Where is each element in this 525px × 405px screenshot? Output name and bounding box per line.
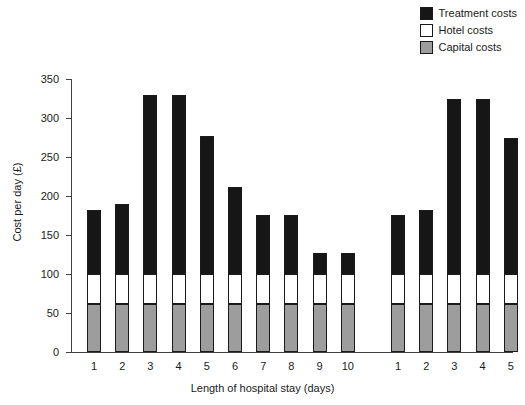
bar-segment-capital-costs bbox=[419, 304, 433, 352]
stacked-bar bbox=[115, 204, 129, 352]
bar-segment-treatment-costs bbox=[143, 95, 157, 274]
x-tick-label: 7 bbox=[248, 361, 278, 372]
bar-segment-treatment-costs bbox=[341, 253, 355, 274]
stacked-bar bbox=[172, 95, 186, 352]
y-tick-mark bbox=[66, 352, 71, 353]
y-axis-line bbox=[71, 79, 72, 353]
bar-segment-treatment-costs bbox=[115, 204, 129, 274]
stacked-bar bbox=[504, 138, 518, 353]
bar-segment-hotel-costs bbox=[172, 274, 186, 304]
x-tick-label: 3 bbox=[439, 361, 469, 372]
y-tick-mark bbox=[66, 274, 71, 275]
x-tick-label: 6 bbox=[220, 361, 250, 372]
bar-segment-capital-costs bbox=[341, 304, 355, 352]
y-tick-label: 50 bbox=[29, 308, 59, 319]
stacked-bar bbox=[341, 253, 355, 352]
bar-segment-treatment-costs bbox=[256, 215, 270, 274]
bar-segment-capital-costs bbox=[476, 304, 490, 352]
bar-segment-hotel-costs bbox=[341, 274, 355, 304]
bar-segment-treatment-costs bbox=[172, 95, 186, 274]
bar-segment-treatment-costs bbox=[200, 136, 214, 274]
stacked-bar bbox=[447, 99, 461, 353]
y-tick-mark bbox=[66, 235, 71, 236]
bar-segment-capital-costs bbox=[200, 304, 214, 352]
x-tick-label: 2 bbox=[411, 361, 441, 372]
stacked-bar bbox=[256, 215, 270, 352]
bar-segment-capital-costs bbox=[313, 304, 327, 352]
bar-segment-treatment-costs bbox=[504, 138, 518, 275]
x-tick-label: 1 bbox=[79, 361, 109, 372]
bar-segment-capital-costs bbox=[284, 304, 298, 352]
bar-segment-treatment-costs bbox=[391, 215, 405, 274]
y-tick-mark bbox=[66, 313, 71, 314]
bar-segment-hotel-costs bbox=[143, 274, 157, 304]
bar-segment-hotel-costs bbox=[391, 274, 405, 304]
y-tick-label: 200 bbox=[29, 191, 59, 202]
bar-segment-treatment-costs bbox=[228, 187, 242, 274]
x-tick-label: 3 bbox=[135, 361, 165, 372]
bar-segment-hotel-costs bbox=[228, 274, 242, 304]
stacked-bar bbox=[87, 210, 101, 352]
bar-segment-capital-costs bbox=[504, 304, 518, 352]
x-axis-line bbox=[71, 352, 513, 353]
y-tick-label: 250 bbox=[29, 152, 59, 163]
y-tick-mark bbox=[66, 196, 71, 197]
y-tick-label: 100 bbox=[29, 269, 59, 280]
stacked-bar bbox=[419, 210, 433, 352]
y-tick-label: 0 bbox=[29, 347, 59, 358]
stacked-bar bbox=[228, 187, 242, 352]
bar-segment-capital-costs bbox=[447, 304, 461, 352]
y-tick-label: 300 bbox=[29, 113, 59, 124]
bar-segment-hotel-costs bbox=[476, 274, 490, 304]
bar-segment-capital-costs bbox=[172, 304, 186, 352]
bar-segment-treatment-costs bbox=[313, 253, 327, 274]
y-tick-label: 150 bbox=[29, 230, 59, 241]
bar-segment-capital-costs bbox=[391, 304, 405, 352]
bar-segment-capital-costs bbox=[228, 304, 242, 352]
y-tick-mark bbox=[66, 79, 71, 80]
bar-segment-hotel-costs bbox=[115, 274, 129, 304]
x-tick-label: 5 bbox=[192, 361, 222, 372]
x-tick-label: 10 bbox=[333, 361, 363, 372]
bar-segment-hotel-costs bbox=[447, 274, 461, 304]
bar-segment-hotel-costs bbox=[419, 274, 433, 304]
bar-segment-hotel-costs bbox=[504, 274, 518, 304]
x-tick-label: 4 bbox=[164, 361, 194, 372]
y-tick-mark bbox=[66, 157, 71, 158]
stacked-bar bbox=[200, 136, 214, 352]
x-tick-label: 8 bbox=[276, 361, 306, 372]
stacked-bar bbox=[313, 253, 327, 352]
x-tick-label: 2 bbox=[107, 361, 137, 372]
bar-segment-hotel-costs bbox=[284, 274, 298, 304]
bar-segment-hotel-costs bbox=[313, 274, 327, 304]
y-tick-label: 350 bbox=[29, 74, 59, 85]
x-tick-label: 1 bbox=[383, 361, 413, 372]
bar-segment-treatment-costs bbox=[476, 99, 490, 275]
bar-segment-treatment-costs bbox=[87, 210, 101, 274]
y-tick-mark bbox=[66, 118, 71, 119]
bar-segment-capital-costs bbox=[115, 304, 129, 352]
x-tick-label: 4 bbox=[468, 361, 498, 372]
bar-segment-treatment-costs bbox=[284, 215, 298, 274]
stacked-bar bbox=[284, 215, 298, 352]
stacked-bar bbox=[476, 99, 490, 353]
stacked-bar bbox=[143, 95, 157, 352]
x-axis-label: Length of hospital stay (days) bbox=[0, 382, 525, 394]
x-tick-label: 9 bbox=[305, 361, 335, 372]
bar-segment-hotel-costs bbox=[200, 274, 214, 304]
bar-segment-capital-costs bbox=[87, 304, 101, 352]
stacked-bar bbox=[391, 215, 405, 352]
x-tick-label: 5 bbox=[496, 361, 525, 372]
y-axis-label: Cost per day (£) bbox=[11, 127, 23, 277]
plot-area: 050100150200250300350 1234567891012345 C… bbox=[0, 0, 525, 405]
bar-segment-hotel-costs bbox=[87, 274, 101, 304]
bar-segment-hotel-costs bbox=[256, 274, 270, 304]
figure: Treatment costs Hotel costs Capital cost… bbox=[0, 0, 525, 405]
bar-segment-capital-costs bbox=[143, 304, 157, 352]
bar-segment-treatment-costs bbox=[447, 99, 461, 275]
bar-segment-capital-costs bbox=[256, 304, 270, 352]
bar-segment-treatment-costs bbox=[419, 210, 433, 274]
